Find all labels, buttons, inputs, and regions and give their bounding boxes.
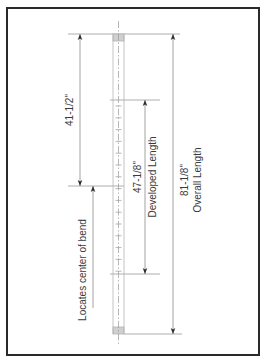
- pipe-bend-drawing: 41-1/2" 47-1/8" Developed Length 81-1/8"…: [0, 0, 265, 363]
- overall-length-label: Overall Length: [192, 147, 203, 212]
- dimension-labels: 41-1/2" 47-1/8" Developed Length 81-1/8"…: [64, 94, 203, 321]
- drawing-canvas: 41-1/2" 47-1/8" Developed Length 81-1/8"…: [0, 0, 265, 363]
- dimension-lines: [78, 34, 176, 334]
- developed-length-value: 47-1/8": [132, 161, 143, 193]
- overall-length-value: 81-1/8": [179, 164, 190, 196]
- pipe-body: [113, 21, 124, 346]
- developed-length-label: Developed Length: [147, 136, 158, 217]
- bend-center-note: Locates center of bend: [77, 219, 88, 321]
- bend-offset-dimension-label: 41-1/2": [64, 94, 75, 126]
